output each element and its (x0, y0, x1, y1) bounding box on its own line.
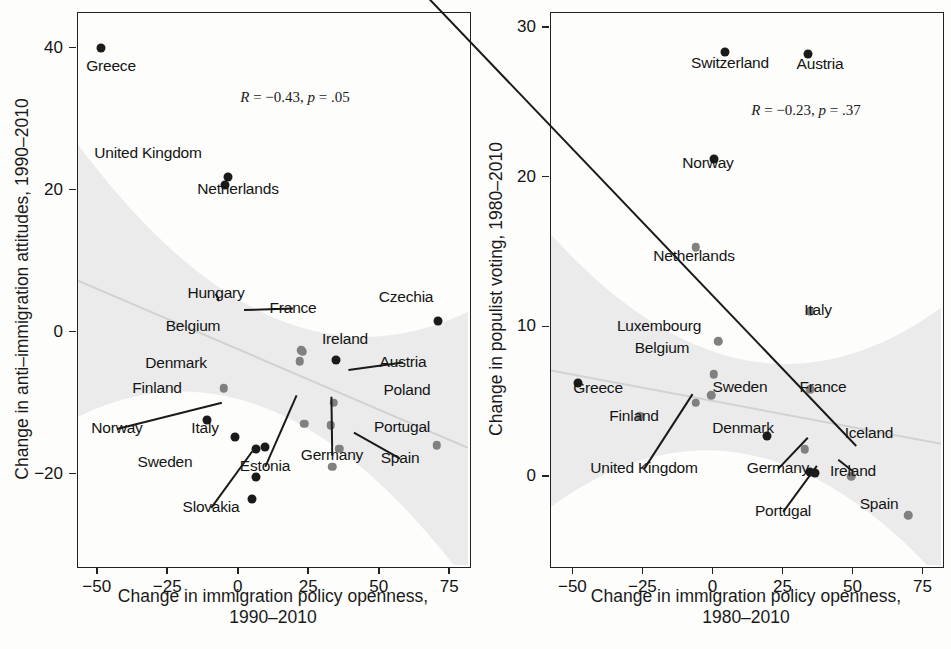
country-label: Spain (381, 449, 420, 467)
left-x-tick-mark (96, 567, 98, 574)
data-point (433, 316, 442, 325)
left-y-tick-label: 0 (54, 322, 63, 342)
right-x-axis-label-line2: 1980–2010 (536, 607, 951, 628)
data-point (260, 443, 269, 452)
left-x-tick-mark (237, 567, 239, 574)
country-label: Hungary (187, 284, 244, 302)
country-label: Greece (86, 57, 136, 75)
stat-p-symbol: p (308, 89, 316, 105)
right-y-tick-mark (542, 26, 549, 28)
country-label: Belgium (166, 317, 221, 335)
left-y-tick-mark (69, 189, 76, 191)
left-y-tick-label: −20 (34, 464, 63, 484)
left-x-axis-label: Change in immigration policy openness, 1… (63, 586, 483, 629)
country-label: Sweden (138, 453, 193, 471)
right-correlation-annotation: R = −0.23, p = .37 (751, 102, 861, 119)
country-label: Ireland (830, 462, 876, 480)
country-label: Estonia (240, 457, 290, 475)
right-x-axis-label: Change in immigration policy openness, 1… (536, 586, 951, 629)
data-point (219, 384, 228, 393)
country-label: Slovakia (183, 498, 240, 516)
data-point (904, 511, 913, 520)
country-label: Portugal (374, 418, 430, 436)
left-y-tick-label: 40 (44, 38, 63, 58)
data-point (96, 43, 105, 52)
country-label: Spain (860, 495, 899, 513)
stat-r-value: = −0.23, (760, 102, 818, 118)
country-label: Sweden (713, 378, 768, 396)
left-x-axis-label-line2: 1990–2010 (63, 607, 483, 628)
right-x-tick-mark (712, 567, 714, 574)
country-label: Poland (383, 381, 430, 399)
right-y-tick-mark (542, 176, 549, 178)
data-point (714, 337, 723, 346)
country-label: Ireland (322, 330, 368, 348)
country-label: Germany (301, 446, 363, 464)
country-label: Portugal (755, 502, 811, 520)
data-point (298, 347, 307, 356)
country-label: Norway (91, 419, 142, 437)
right-x-tick-mark (642, 567, 644, 574)
right-plot-area (551, 13, 941, 565)
scatter-figure: Change in anti–immigration attitudes, 19… (0, 0, 951, 649)
right-confidence-band (551, 13, 941, 565)
left-x-tick-mark (166, 567, 168, 574)
left-correlation-annotation: R = −0.43, p = .05 (240, 89, 350, 106)
country-label: France (269, 299, 316, 317)
data-point (247, 494, 256, 503)
data-point (801, 445, 810, 454)
country-label: Netherlands (653, 247, 734, 265)
data-point (230, 432, 239, 441)
country-label: Denmark (145, 354, 206, 372)
country-label: United Kingdom (94, 144, 202, 162)
right-y-tick-label: 20 (517, 167, 536, 187)
country-label: Norway (682, 154, 733, 172)
left-y-tick-mark (69, 473, 76, 475)
stat-p-value: = .05 (315, 89, 350, 105)
left-panel: Change in anti–immigration attitudes, 19… (0, 0, 475, 649)
right-x-tick-mark (922, 567, 924, 574)
left-y-axis-label: Change in anti–immigration attitudes, 19… (12, 98, 33, 479)
data-point (332, 356, 341, 365)
country-label: Italy (191, 419, 218, 437)
country-label: Greece (573, 379, 623, 397)
stat-r-symbol: R (751, 102, 760, 118)
country-label: Germany (747, 459, 809, 477)
left-x-tick-mark (307, 567, 309, 574)
left-y-tick-label: 20 (44, 180, 63, 200)
left-y-tick-mark (69, 331, 76, 333)
data-point (300, 420, 309, 429)
right-y-tick-label: 30 (517, 17, 536, 37)
right-y-tick-label: 0 (527, 466, 536, 486)
right-x-axis-label-line1: Change in immigration policy openness, (536, 586, 951, 607)
country-label: Netherlands (197, 180, 278, 198)
stat-p-symbol: p (819, 102, 827, 118)
country-label: Denmark (712, 419, 773, 437)
left-y-tick-mark (69, 47, 76, 49)
country-label: Belgium (635, 339, 690, 357)
stat-r-symbol: R (240, 89, 249, 105)
right-y-tick-mark (542, 475, 549, 477)
stat-r-value: = −0.43, (249, 89, 307, 105)
country-label: Luxembourg (617, 317, 701, 335)
stat-p-value: = .37 (826, 102, 861, 118)
country-label: Italy (804, 301, 831, 319)
data-point (296, 357, 305, 366)
left-x-tick-mark (378, 567, 380, 574)
country-label: Austria (797, 55, 844, 73)
right-panel: Change in populist voting, 1980–2010 302… (476, 0, 951, 649)
data-point (691, 399, 700, 408)
right-y-tick-label: 10 (517, 316, 536, 336)
country-label: Czechia (379, 288, 434, 306)
right-y-tick-mark (542, 326, 549, 328)
right-x-tick-mark (782, 567, 784, 574)
country-label: Finland (132, 379, 181, 397)
left-x-axis-label-line1: Change in immigration policy openness, (63, 586, 483, 607)
country-label: Finland (609, 407, 658, 425)
right-x-tick-mark (852, 567, 854, 574)
left-x-tick-mark (448, 567, 450, 574)
country-label: Switzerland (691, 54, 769, 72)
country-label: Austria (380, 353, 427, 371)
right-x-tick-mark (572, 567, 574, 574)
data-point (432, 441, 441, 450)
